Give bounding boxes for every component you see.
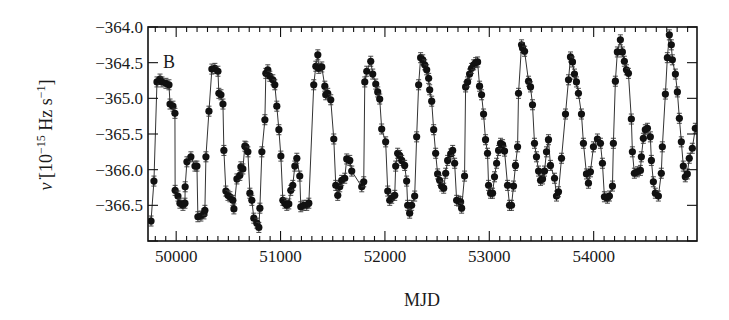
data-point [562, 110, 569, 117]
data-point [314, 51, 321, 58]
data-point [606, 192, 613, 199]
data-point [491, 173, 498, 180]
y-tick-label: −364.0 [95, 18, 143, 37]
data-point [324, 90, 331, 97]
data-point [171, 110, 178, 117]
data-point [271, 81, 278, 88]
y-axis-unit-exp1: −15 [34, 135, 48, 154]
y-axis-unit-mid: Hz s [36, 98, 56, 135]
data-point [647, 133, 654, 140]
y-tick-label: −366.5 [95, 196, 143, 215]
data-point [674, 88, 681, 95]
data-point [318, 63, 325, 70]
y-tick-label: −366.0 [95, 161, 143, 180]
data-point [289, 182, 296, 189]
data-point [629, 148, 636, 155]
data-point [580, 140, 587, 147]
chart: 5000051000520005300054000 −364.0−364.5−3… [0, 0, 729, 320]
data-point [482, 136, 489, 143]
data-point [514, 143, 521, 150]
data-point [637, 167, 644, 174]
data-point [508, 202, 515, 209]
x-tick-label: 51000 [259, 247, 302, 266]
data-point [638, 153, 645, 160]
data-point [261, 116, 268, 123]
data-point [360, 178, 367, 185]
data-point [432, 150, 439, 157]
data-point [547, 162, 554, 169]
data-point [327, 96, 334, 103]
data-point [201, 207, 208, 214]
data-point [689, 145, 696, 152]
data-point [426, 86, 433, 93]
data-point [296, 172, 303, 179]
data-point [369, 70, 376, 77]
data-point [277, 153, 284, 160]
data-point [336, 183, 343, 190]
data-point [193, 163, 200, 170]
data-point [484, 150, 491, 157]
data-point [686, 155, 693, 162]
data-point [258, 148, 265, 155]
y-axis-unit-close: ] [36, 79, 56, 85]
data-point [597, 140, 604, 147]
data-point [658, 170, 665, 177]
data-point [346, 157, 353, 164]
data-point [628, 115, 635, 122]
data-point [229, 197, 236, 204]
data-point [285, 200, 292, 207]
data-point [444, 157, 451, 164]
data-point [575, 90, 582, 97]
data-point [348, 167, 355, 174]
data-point [666, 31, 673, 38]
data-point [489, 190, 496, 197]
data-point [411, 192, 418, 199]
data-point [512, 162, 519, 169]
data-point [415, 81, 422, 88]
data-point [609, 182, 616, 189]
data-point [248, 197, 255, 204]
data-point [527, 83, 534, 90]
panel-label: B [163, 52, 175, 72]
data-point [334, 192, 341, 199]
data-point [521, 48, 528, 55]
y-tick-label: −365.5 [95, 125, 143, 144]
data-point [476, 83, 483, 90]
data-point [219, 100, 226, 107]
data-point [330, 135, 337, 142]
data-point [217, 91, 224, 98]
data-point [493, 160, 500, 167]
data-point [573, 78, 580, 85]
y-tick-label: −365.0 [95, 89, 143, 108]
data-point [650, 178, 657, 185]
data-point [205, 108, 212, 115]
data-point [430, 126, 437, 133]
data-point [676, 115, 683, 122]
data-point [619, 48, 626, 55]
data-point [264, 66, 271, 73]
data-point [555, 188, 562, 195]
data-point [669, 56, 676, 63]
data-point [625, 70, 632, 77]
data-point [640, 135, 647, 142]
data-point [531, 140, 538, 147]
data-point [558, 155, 565, 162]
data-point [617, 36, 624, 43]
data-point [578, 110, 585, 117]
data-point [382, 138, 389, 145]
data-point [182, 183, 189, 190]
data-point [565, 76, 572, 83]
data-point [413, 133, 420, 140]
data-point [273, 103, 280, 110]
data-point [275, 126, 282, 133]
data-point [202, 153, 209, 160]
data-point [391, 192, 398, 199]
data-point [621, 58, 628, 65]
data-point [529, 101, 536, 108]
data-point [501, 148, 508, 155]
data-point [499, 141, 506, 148]
data-point [305, 200, 312, 207]
data-point [672, 70, 679, 77]
y-axis-unit-exp2: −1 [34, 85, 48, 98]
x-tick-label: 53000 [468, 247, 511, 266]
